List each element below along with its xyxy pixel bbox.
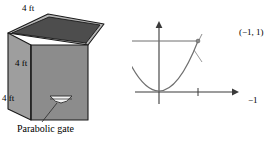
- parabola-plot: [132, 0, 271, 150]
- tank-front-face: [31, 45, 88, 120]
- parabolic-gate-caption: Parabolic gate: [17, 124, 74, 134]
- x-axis-arrowhead: [232, 89, 239, 96]
- point-right-leader-line: [199, 34, 202, 40]
- tank-left-face: [8, 33, 31, 120]
- parabola-curve: [132, 41, 198, 91]
- x-tick-label-neg1: −1: [248, 95, 258, 105]
- tank-top-width-label: 4 ft: [22, 3, 34, 13]
- tank-height-label: 4 ft: [15, 58, 27, 68]
- y-axis-arrowhead: [156, 21, 163, 28]
- tank-depth-label: 4 ft: [2, 93, 14, 103]
- equation-leader-line: [194, 50, 202, 62]
- point-label-left: (−1, 1): [239, 27, 264, 37]
- graph-panel: y (ft) x (ft) (−1, 1) (1, 1) y = x2 −1 0…: [132, 0, 271, 150]
- tank-diagram-panel: 4 ft 4 ft 4 ft Parabolic gate: [0, 0, 132, 150]
- figure-root: 4 ft 4 ft 4 ft Parabolic gate: [0, 0, 271, 150]
